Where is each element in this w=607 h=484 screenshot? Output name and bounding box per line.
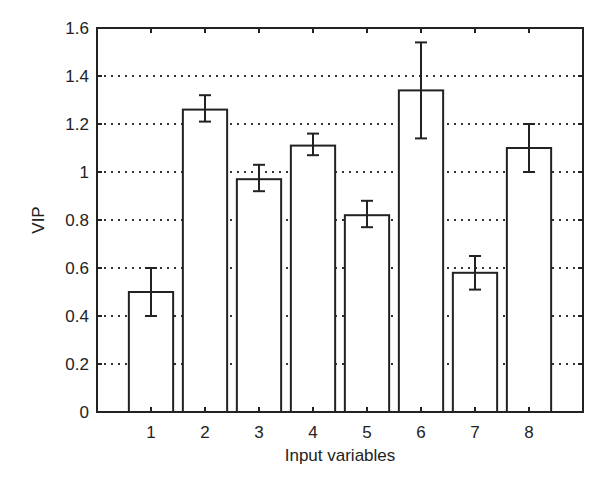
y-tick-label: 0.6 <box>65 259 89 278</box>
x-tick-labels: 12345678 <box>146 423 533 442</box>
y-tick-label: 1.6 <box>65 19 89 38</box>
y-tick-label: 0.8 <box>65 211 89 230</box>
bar <box>183 110 227 412</box>
y-tick-labels: 00.20.40.60.811.21.41.6 <box>65 19 89 422</box>
x-tick-label: 4 <box>308 423 317 442</box>
y-tick-label: 0.4 <box>65 307 89 326</box>
x-tick-label: 5 <box>362 423 371 442</box>
vip-bar-chart: 00.20.40.60.811.21.41.6 12345678 Input v… <box>0 0 607 484</box>
y-axis-label: VIP <box>29 206 48 233</box>
x-tick-label: 6 <box>416 423 425 442</box>
x-tick-label: 1 <box>146 423 155 442</box>
bar <box>453 273 497 412</box>
y-tick-label: 0 <box>80 403 89 422</box>
bars <box>129 90 551 412</box>
bar <box>345 215 389 412</box>
x-tick-label: 8 <box>524 423 533 442</box>
x-tick-label: 3 <box>254 423 263 442</box>
x-axis-label: Input variables <box>285 446 396 465</box>
y-tick-label: 1 <box>80 163 89 182</box>
x-tick-label: 7 <box>470 423 479 442</box>
bar <box>291 146 335 412</box>
bar <box>507 148 551 412</box>
x-tick-label: 2 <box>200 423 209 442</box>
y-tick-label: 1.2 <box>65 115 89 134</box>
bar <box>237 179 281 412</box>
y-tick-label: 0.2 <box>65 355 89 374</box>
y-tick-label: 1.4 <box>65 67 89 86</box>
